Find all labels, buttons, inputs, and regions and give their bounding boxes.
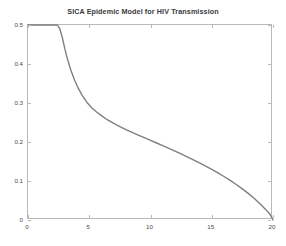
plot-inner — [28, 25, 271, 218]
y-tick-label: 0.5 — [0, 21, 23, 28]
y-tick-mark-right — [268, 181, 271, 182]
y-tick-mark — [28, 25, 31, 26]
y-tick-mark — [28, 142, 31, 143]
y-tick-label: 0.3 — [0, 99, 23, 106]
y-tick-mark-right — [268, 25, 271, 26]
y-tick-mark — [28, 64, 31, 65]
chart-title: SICA Epidemic Model for HIV Transmission — [0, 7, 286, 16]
y-tick-label: 0.4 — [0, 60, 23, 67]
y-tick-label: 0.2 — [0, 138, 23, 145]
x-tick-mark — [212, 215, 213, 218]
y-tick-mark-right — [268, 142, 271, 143]
y-tick-mark — [28, 220, 31, 221]
x-tick-mark — [89, 215, 90, 218]
x-tick-mark — [273, 215, 274, 218]
line-path — [28, 25, 273, 220]
plot-area — [27, 24, 272, 219]
y-tick-label: 0 — [0, 216, 23, 223]
chart-figure: SICA Epidemic Model for HIV Transmission… — [0, 0, 286, 246]
y-tick-mark — [28, 181, 31, 182]
x-tick-mark-top — [89, 25, 90, 28]
y-tick-mark-right — [268, 220, 271, 221]
curve-series-I — [28, 25, 273, 220]
x-tick-label: 20 — [269, 223, 276, 230]
y-tick-mark — [28, 103, 31, 104]
x-tick-label: 0 — [25, 223, 28, 230]
y-tick-mark-right — [268, 103, 271, 104]
y-tick-label: 0.1 — [0, 177, 23, 184]
x-tick-mark-top — [273, 25, 274, 28]
x-tick-mark — [151, 215, 152, 218]
x-tick-label: 5 — [87, 223, 90, 230]
x-tick-mark-top — [151, 25, 152, 28]
y-tick-mark-right — [268, 64, 271, 65]
x-tick-label: 10 — [146, 223, 153, 230]
x-tick-mark-top — [212, 25, 213, 28]
x-tick-label: 15 — [207, 223, 214, 230]
x-tick-mark — [28, 215, 29, 218]
